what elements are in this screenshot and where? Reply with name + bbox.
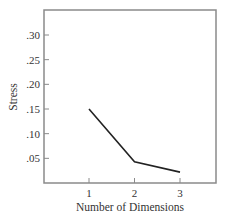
y-tick-label: .15 (26, 103, 40, 115)
stress-line (89, 109, 180, 172)
x-axis-title: Number of Dimensions (76, 201, 184, 213)
y-tick-label: .10 (26, 128, 40, 140)
y-tick-label: .05 (26, 152, 40, 164)
x-axis-ticks: 123 (86, 178, 183, 199)
scree-plot: .05.10.15.20.25.30 123 Stress Number of … (0, 0, 233, 224)
y-tick-label: .25 (26, 54, 40, 66)
y-axis-title: Stress (7, 83, 19, 111)
x-tick-label: 2 (132, 187, 138, 199)
x-tick-label: 1 (86, 187, 92, 199)
y-tick-label: .20 (26, 78, 40, 90)
x-tick-label: 3 (177, 187, 183, 199)
y-axis-ticks: .05.10.15.20.25.30 (26, 29, 49, 164)
y-tick-label: .30 (26, 29, 40, 41)
